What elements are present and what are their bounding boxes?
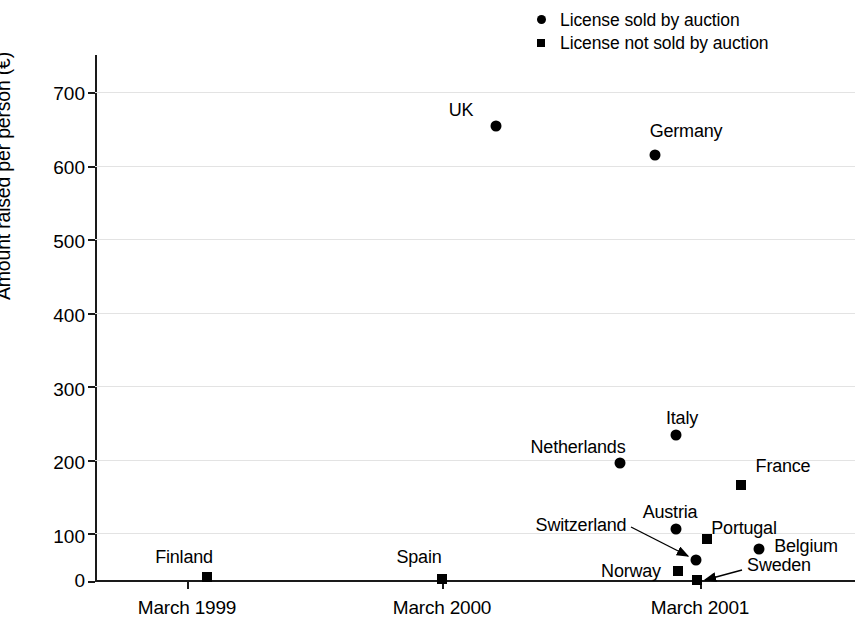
data-label-portugal: Portugal [711, 519, 776, 537]
data-label-uk: UK [449, 101, 474, 119]
data-points-layer: UK Germany Italy Netherlands France Aust… [0, 0, 868, 634]
data-label-netherlands: Netherlands [531, 438, 626, 456]
data-point-germany[interactable] [650, 150, 661, 161]
data-label-france: France [756, 457, 811, 475]
data-label-germany: Germany [650, 122, 723, 140]
data-point-spain[interactable] [437, 574, 447, 584]
data-point-france[interactable] [736, 480, 746, 490]
data-point-norway[interactable] [673, 566, 683, 576]
data-point-italy[interactable] [671, 430, 682, 441]
data-point-belgium[interactable] [754, 544, 765, 555]
data-point-austria[interactable] [671, 524, 682, 535]
chart-figure: License sold by auction License not sold… [0, 0, 868, 634]
data-point-finland[interactable] [202, 572, 212, 582]
data-point-sweden[interactable] [692, 575, 702, 585]
data-label-finland: Finland [155, 548, 213, 566]
data-label-switzerland: Switzerland [536, 516, 627, 534]
data-point-switzerland[interactable] [691, 555, 702, 566]
data-label-spain: Spain [396, 548, 441, 566]
data-label-belgium: Belgium [774, 537, 838, 555]
data-label-norway: Norway [601, 562, 661, 580]
data-label-italy: Italy [666, 409, 698, 427]
data-point-uk[interactable] [491, 121, 502, 132]
data-point-netherlands[interactable] [615, 458, 626, 469]
data-label-austria: Austria [643, 503, 698, 521]
data-label-sweden: Sweden [747, 556, 811, 574]
